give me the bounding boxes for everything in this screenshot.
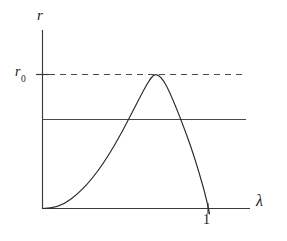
r-zero-base: r bbox=[15, 64, 20, 79]
r-zero-subscript: 0 bbox=[21, 74, 26, 84]
growth-rate-curve bbox=[43, 75, 210, 214]
figure-canvas: r λ r0 1 bbox=[0, 0, 287, 241]
x-tick-label-one: 1 bbox=[203, 212, 210, 228]
y-axis-label: r bbox=[37, 8, 43, 23]
x-axis-label: λ bbox=[256, 193, 263, 209]
plot-svg bbox=[0, 0, 287, 241]
r-zero-tick-label: r0 bbox=[15, 65, 25, 82]
